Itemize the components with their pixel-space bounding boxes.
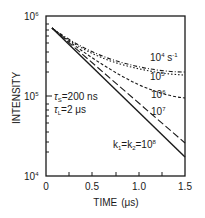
label-k1e7: 107 (151, 106, 166, 117)
label-k1e6: 106 (151, 89, 166, 100)
curve-k1e4 (52, 28, 185, 72)
ytick-1e5: 105 (24, 91, 39, 102)
y-axis-label: INTENSITY (11, 72, 22, 125)
xtick-1-0: 1.0 (132, 181, 146, 192)
label-k1e5: 105 (150, 71, 165, 82)
label-k1e4: 104 s-1 (150, 52, 178, 63)
x-axis-label: TIME(μs) (93, 197, 138, 208)
curve-k1e6 (52, 28, 185, 98)
y-ticks (46, 24, 52, 152)
xtick-0-5: 0.5 (85, 181, 99, 192)
ytick-1e4: 104 (24, 171, 39, 182)
tau-l-annotation: τL=2 μs (54, 104, 86, 116)
xtick-1-5: 1.5 (178, 181, 192, 192)
chart: 106 105 104 0 0.5 1.0 1.5 TIME(μs) INTEN… (0, 0, 205, 218)
label-k1e8: k1=k2=108 (113, 139, 157, 151)
tau-s-annotation: τS=200 ns (54, 91, 98, 103)
curve-k1e7 (52, 28, 185, 143)
ytick-1e6: 106 (24, 11, 39, 22)
xtick-0: 0 (43, 181, 49, 192)
